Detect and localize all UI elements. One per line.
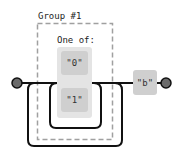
literal-1: "1"	[66, 95, 82, 105]
literal-0: "0"	[66, 58, 82, 68]
literal-b: "b"	[137, 78, 153, 88]
railroad-diagram: Group #1 One of: "0" "1" "b"	[0, 0, 183, 157]
group-label: Group #1	[38, 11, 81, 21]
end-terminal-icon	[161, 78, 171, 88]
choice-label: One of:	[57, 35, 95, 45]
start-terminal-icon	[12, 78, 22, 88]
